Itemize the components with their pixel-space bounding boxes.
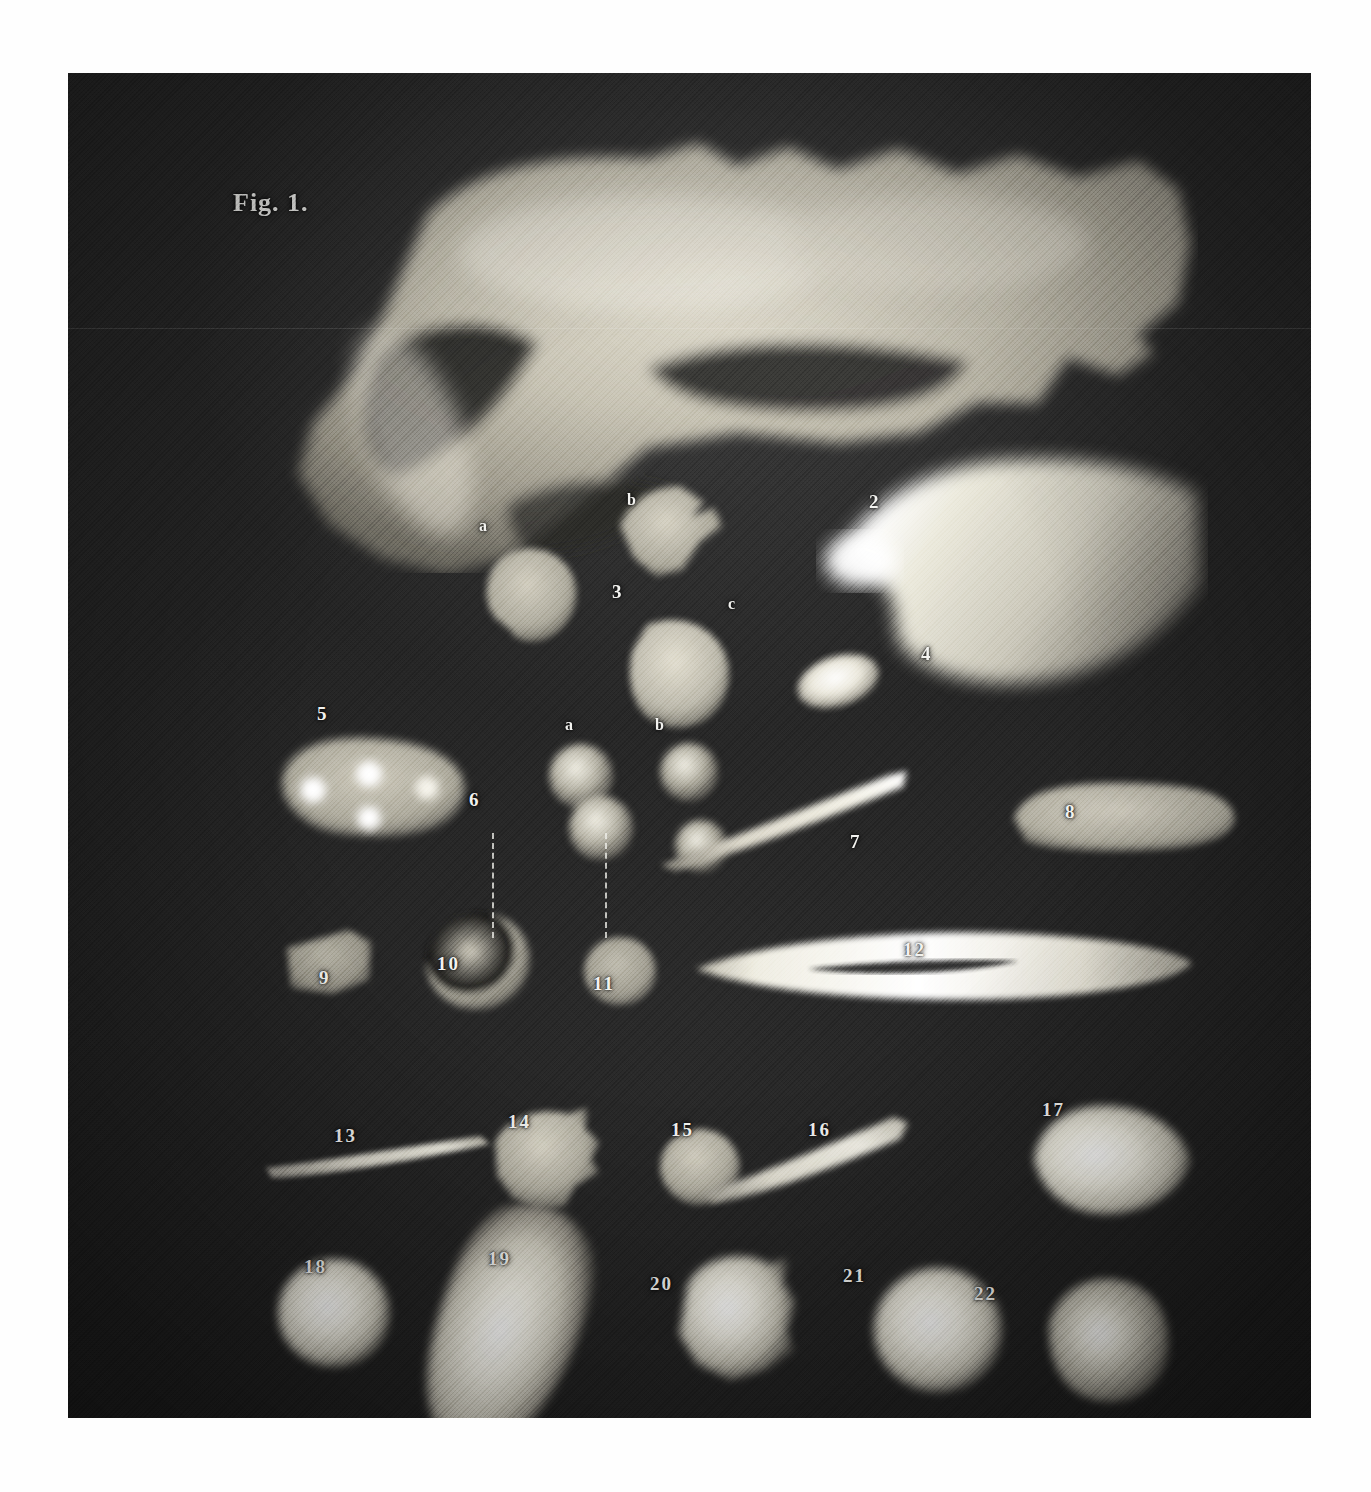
- label-6: 6: [469, 789, 481, 811]
- specimen-18: [264, 1241, 409, 1386]
- label-6a: a: [565, 716, 573, 734]
- label-16: 16: [808, 1119, 831, 1141]
- specimen-9: [273, 908, 393, 1013]
- label-21: 21: [843, 1265, 866, 1287]
- label-12: 12: [903, 939, 926, 961]
- specimen-22: [1023, 1258, 1188, 1418]
- label-22: 22: [974, 1283, 997, 1305]
- photographic-plate: Fig. 1. 2 a b 3 c 4 5 a b 6 7 8 9 10 11 …: [68, 73, 1311, 1418]
- dashed-line-6a: [492, 833, 494, 938]
- specimen-19: [398, 1178, 628, 1418]
- specimen-21: [858, 1248, 1023, 1413]
- label-7: 7: [850, 831, 862, 853]
- label-8: 8: [1065, 801, 1077, 823]
- label-19: 19: [488, 1248, 511, 1270]
- label-9: 9: [319, 967, 331, 989]
- specimen-11: [570, 921, 670, 1021]
- dashed-line-6b: [605, 833, 607, 938]
- label-5: 5: [317, 703, 329, 725]
- specimen-3a: [468, 528, 598, 658]
- label-3c: c: [728, 595, 735, 613]
- label-15: 15: [671, 1119, 694, 1141]
- specimen-10: [410, 895, 545, 1025]
- label-14: 14: [508, 1111, 531, 1133]
- label-3b: b: [627, 491, 636, 509]
- label-2: 2: [869, 491, 881, 513]
- label-6b: b: [655, 716, 664, 734]
- specimen-7: [653, 753, 933, 878]
- label-13: 13: [334, 1125, 357, 1147]
- label-20: 20: [650, 1273, 673, 1295]
- specimen-8: [998, 763, 1248, 868]
- label-11: 11: [593, 973, 615, 995]
- label-3: 3: [612, 581, 624, 603]
- label-17: 17: [1042, 1099, 1065, 1121]
- specimen-3c: [613, 603, 748, 743]
- figure-caption: Fig. 1.: [233, 188, 309, 218]
- specimen-6a: [533, 728, 653, 878]
- scan-seam: [68, 328, 1311, 329]
- specimen-20: [653, 1238, 818, 1403]
- specimen-12: [688, 903, 1208, 1023]
- plate-page: Fig. 1. 2 a b 3 c 4 5 a b 6 7 8 9 10 11 …: [0, 0, 1371, 1492]
- specimen-4: [786, 641, 891, 721]
- label-4: 4: [921, 643, 933, 665]
- label-3a: a: [479, 517, 487, 535]
- label-18: 18: [304, 1256, 327, 1278]
- specimen-5: [263, 718, 488, 863]
- label-10: 10: [437, 953, 460, 975]
